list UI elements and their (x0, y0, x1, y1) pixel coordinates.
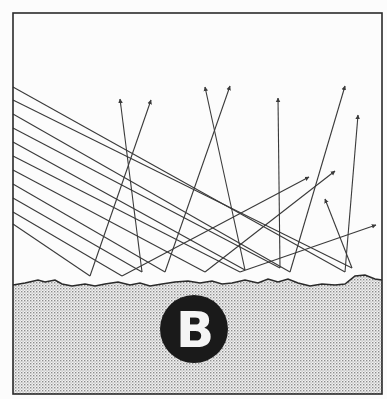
incident-ray (13, 87, 345, 272)
incident-ray (13, 184, 165, 272)
incident-ray (13, 212, 122, 276)
reflected-ray-arrow (278, 98, 280, 268)
reflected-rays (90, 86, 376, 276)
reflected-ray-arrow (205, 87, 245, 270)
incident-ray (13, 156, 240, 272)
reflected-ray-arrow (290, 86, 345, 272)
reflected-ray-arrow (240, 225, 376, 272)
logo-badge: B (160, 295, 228, 363)
reflection-diagram: B (0, 0, 387, 399)
incident-ray (13, 114, 290, 272)
reflected-ray-arrow (345, 115, 358, 272)
diagram-canvas: B (0, 0, 387, 399)
incident-ray (13, 198, 142, 272)
logo-letter: B (176, 301, 214, 359)
